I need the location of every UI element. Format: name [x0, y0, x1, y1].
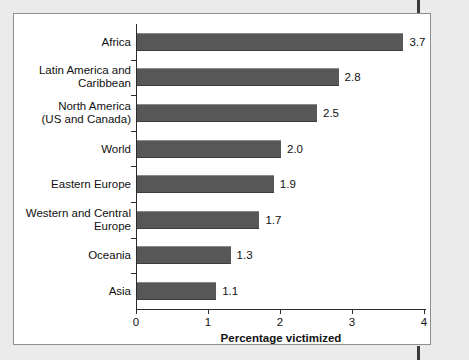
y-axis-tick — [131, 60, 136, 61]
category-label: Oceania — [11, 249, 131, 262]
bar-value-label: 2.0 — [287, 143, 303, 155]
bar — [137, 211, 259, 229]
bar — [137, 246, 231, 264]
category-label: Latin America and Caribbean — [11, 64, 131, 90]
category-label: Africa — [11, 35, 131, 48]
category-label: Asia — [11, 284, 131, 297]
bar-container: 1.3 — [137, 246, 231, 264]
x-axis-tick — [352, 309, 353, 314]
x-axis-line — [136, 309, 426, 310]
y-axis-tick — [131, 202, 136, 203]
bar-value-label: 1.7 — [265, 214, 281, 226]
bar-row: World2.0 — [14, 131, 430, 167]
bar-container: 3.7 — [137, 33, 403, 51]
bar-rows: Africa3.7Latin America and Caribbean2.8N… — [14, 24, 430, 309]
bar-value-label: 1.9 — [280, 178, 296, 190]
bar-row: Western and Central Europe1.7 — [14, 202, 430, 238]
x-axis-title: Percentage victimized — [136, 332, 426, 344]
category-label: World — [11, 142, 131, 155]
x-axis-tick-label: 4 — [421, 316, 427, 328]
bar — [137, 282, 216, 300]
y-axis-tick — [131, 131, 136, 132]
bar-container: 1.9 — [137, 175, 274, 193]
page-background: Africa3.7Latin America and Caribbean2.8N… — [0, 0, 469, 360]
y-axis-tick — [131, 95, 136, 96]
bar-container: 2.5 — [137, 104, 317, 122]
x-axis-tick — [208, 309, 209, 314]
bar — [137, 33, 403, 51]
bar-chart-plot-area: Africa3.7Latin America and Caribbean2.8N… — [14, 14, 430, 344]
bar — [137, 140, 281, 158]
bar-value-label: 1.1 — [222, 285, 238, 297]
x-axis-tick — [136, 309, 137, 314]
bar-value-label: 2.8 — [345, 71, 361, 83]
bar-row: Africa3.7 — [14, 24, 430, 60]
x-axis-tick — [280, 309, 281, 314]
bar-row: North America (US and Canada)2.5 — [14, 95, 430, 131]
bar-value-label: 1.3 — [237, 249, 253, 261]
bar-row: Asia1.1 — [14, 273, 430, 309]
category-label: Eastern Europe — [11, 178, 131, 191]
bar-container: 1.7 — [137, 211, 259, 229]
category-label: Western and Central Europe — [11, 207, 131, 233]
bar — [137, 68, 339, 86]
x-axis-tick-label: 2 — [277, 316, 283, 328]
x-axis-tick-label: 3 — [349, 316, 355, 328]
bar-value-label: 2.5 — [323, 107, 339, 119]
bar-container: 1.1 — [137, 282, 216, 300]
bar — [137, 175, 274, 193]
chart-frame: Africa3.7Latin America and Caribbean2.8N… — [13, 13, 431, 345]
category-label: North America (US and Canada) — [11, 100, 131, 126]
bar-container: 2.8 — [137, 68, 339, 86]
bar-value-label: 3.7 — [409, 36, 425, 48]
x-axis-tick — [424, 309, 425, 314]
bar — [137, 104, 317, 122]
page-gutter-rule-bottom — [417, 346, 420, 360]
x-axis-tick-label: 1 — [205, 316, 211, 328]
bar-row: Latin America and Caribbean2.8 — [14, 60, 430, 96]
x-axis-tick-label: 0 — [133, 316, 139, 328]
bar-row: Eastern Europe1.9 — [14, 166, 430, 202]
y-axis-tick — [131, 238, 136, 239]
bar-container: 2.0 — [137, 140, 281, 158]
y-axis-tick — [131, 166, 136, 167]
bar-row: Oceania1.3 — [14, 238, 430, 274]
y-axis-tick — [131, 273, 136, 274]
